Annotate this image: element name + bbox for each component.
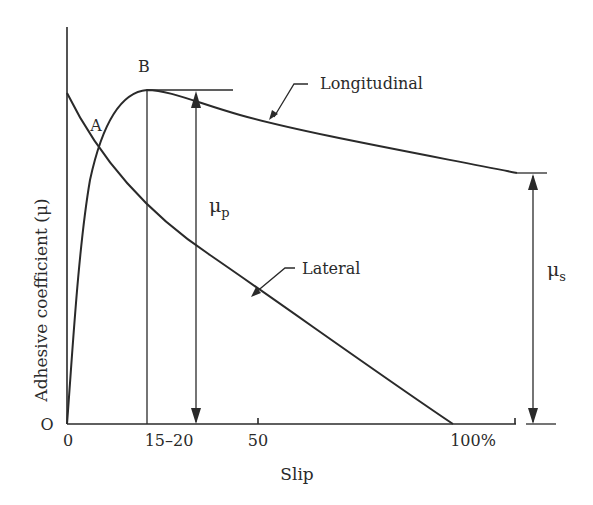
longitudinal-curve: [67, 90, 517, 424]
mu-s-arrowhead-top: [528, 174, 538, 190]
svg-text:μs: μs: [547, 258, 566, 284]
point-a-label: A: [89, 116, 102, 135]
longitudinal-leader: [274, 84, 308, 117]
mu-s-label: μs: [547, 258, 566, 284]
x-tick-100: 100%: [450, 431, 496, 450]
svg-text:μp: μp: [209, 194, 230, 220]
origin-label: O: [40, 415, 53, 434]
x-tick-50: 50: [248, 431, 268, 450]
lateral-curve: [67, 93, 453, 424]
mu-p-label: μp: [209, 194, 230, 220]
longitudinal-label: Longitudinal: [320, 74, 423, 93]
lateral-label: Lateral: [302, 259, 360, 278]
y-axis-label: Adhesive coefficient (μ): [31, 198, 51, 402]
point-b-label: B: [138, 57, 150, 76]
mu-s-arrowhead-bottom: [528, 408, 538, 424]
x-axis-label: Slip: [280, 464, 314, 484]
x-tick-0: 0: [63, 431, 73, 450]
x-tick-15-20: 15–20: [145, 431, 194, 450]
adhesion-slip-diagram: Adhesive coefficient (μ) Slip O A B 0 15…: [0, 0, 593, 505]
mu-p-arrowhead-bottom: [191, 408, 201, 424]
